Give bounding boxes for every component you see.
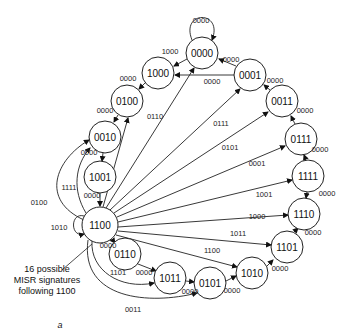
node-1100: 1100 bbox=[82, 207, 118, 243]
edge-1110-1111 bbox=[306, 192, 307, 198]
node-1000: 1000 bbox=[142, 57, 174, 89]
edge-1111-0111 bbox=[304, 155, 306, 160]
svg-text:1100: 1100 bbox=[89, 220, 111, 231]
label-0000-self: 0000 bbox=[193, 16, 210, 25]
edge-1011-0101 bbox=[186, 281, 194, 282]
label-1100-self: 1010 bbox=[51, 223, 68, 232]
svg-text:0011: 0011 bbox=[271, 96, 293, 107]
edge-0101-1010 bbox=[226, 276, 236, 281]
svg-text:1000: 1000 bbox=[147, 68, 170, 79]
svg-text:1111: 1111 bbox=[298, 171, 318, 182]
edge-1100-1111 bbox=[118, 180, 292, 222]
figure-caption: a bbox=[57, 320, 62, 330]
edge-0011-0001 bbox=[264, 85, 270, 90]
svg-text:0110: 0110 bbox=[114, 249, 136, 260]
label-1000-0100: 0000 bbox=[120, 74, 137, 83]
label-0011-0001: 0000 bbox=[267, 76, 284, 85]
label-0100: 0100 bbox=[31, 198, 48, 207]
svg-text:0001: 0001 bbox=[239, 70, 262, 81]
label-1001-1100: 0000 bbox=[84, 191, 101, 200]
svg-text:1010: 1010 bbox=[241, 268, 264, 279]
svg-text:1001: 1001 bbox=[89, 172, 112, 183]
svg-text:0101: 0101 bbox=[199, 278, 222, 289]
label-0101-1010: 0000 bbox=[224, 286, 241, 295]
label-1111-0111: 0000 bbox=[312, 145, 329, 154]
label-0001-1000: 0000 bbox=[204, 77, 221, 86]
label-1101-1110: 0000 bbox=[305, 228, 322, 237]
label-1010-1101: 0000 bbox=[272, 264, 289, 273]
svg-text:0111: 0111 bbox=[291, 134, 312, 145]
svg-text:1101: 1101 bbox=[276, 242, 298, 253]
label-1001: 1001 bbox=[256, 190, 273, 199]
label-0001-0000: 0000 bbox=[223, 55, 240, 64]
label-1100: 1100 bbox=[204, 246, 220, 255]
label-0111: 0111 bbox=[213, 119, 229, 128]
edge-1100-0111 bbox=[117, 146, 285, 217]
label-0101: 0101 bbox=[222, 143, 239, 152]
diagram-canvas: 0000 1000 0100 0010 1001 1100 0001 0011 … bbox=[0, 0, 351, 332]
state-diagram: 0000 1000 0100 0010 1001 1100 0001 0011 … bbox=[0, 0, 351, 332]
edge-0111-0011 bbox=[291, 116, 295, 124]
label-1011: 1011 bbox=[230, 229, 246, 238]
node-0000: 0000 bbox=[186, 37, 218, 69]
edge-1000-0100 bbox=[139, 83, 145, 89]
annotation-line-1: 16 possible bbox=[24, 264, 70, 274]
label-0011: 0011 bbox=[125, 305, 141, 314]
label-1110-1111: 0000 bbox=[319, 189, 336, 198]
svg-text:0000: 0000 bbox=[191, 48, 214, 59]
node-1101: 1101 bbox=[271, 231, 303, 263]
label-0001: 0001 bbox=[249, 159, 266, 168]
edge-0010-1001 bbox=[102, 153, 103, 161]
node-0011: 0011 bbox=[266, 85, 298, 117]
label-1011-0101: 0000 bbox=[182, 287, 199, 296]
label-0111-0011: 0000 bbox=[297, 106, 314, 115]
label-1111: 1111 bbox=[61, 183, 76, 192]
svg-text:1110: 1110 bbox=[294, 209, 315, 220]
label-0110-1011: 0000 bbox=[136, 268, 153, 277]
edge-0000-1000 bbox=[174, 59, 187, 66]
svg-text:0100: 0100 bbox=[116, 96, 139, 107]
label-1100-0110: 0000 bbox=[100, 241, 117, 250]
label-0000-1000: 1000 bbox=[162, 47, 179, 56]
node-1001: 1001 bbox=[84, 161, 116, 193]
node-1110: 1110 bbox=[288, 198, 320, 230]
annotation-line-2: MISR signatures bbox=[14, 275, 81, 285]
node-0101: 0101 bbox=[194, 267, 226, 299]
node-0100: 0100 bbox=[111, 85, 143, 117]
annotation-line-3: following 1100 bbox=[19, 286, 76, 296]
annotation: 16 possible MISR signatures following 11… bbox=[14, 264, 81, 296]
edge-1100-1101 bbox=[118, 231, 271, 245]
node-1111: 1111 bbox=[292, 160, 324, 192]
label-0010-1001: 0000 bbox=[81, 148, 98, 157]
svg-text:1011: 1011 bbox=[159, 273, 181, 284]
svg-text:0010: 0010 bbox=[94, 132, 117, 143]
label-0100-0010: 0000 bbox=[97, 106, 114, 115]
edges bbox=[57, 18, 307, 299]
edge-0100-0010 bbox=[114, 115, 118, 122]
label-1000: 1000 bbox=[249, 212, 266, 221]
label-0110: 0110 bbox=[147, 112, 163, 121]
node-1010: 1010 bbox=[236, 257, 268, 289]
label-1101: 1101 bbox=[110, 268, 126, 277]
